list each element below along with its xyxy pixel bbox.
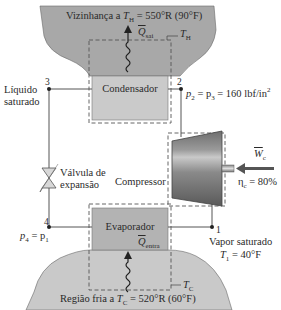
expansion-valve-icon	[40, 164, 58, 192]
state-1-number: 1	[216, 224, 221, 236]
state-3-desc-line2: saturado	[4, 96, 40, 108]
state-1-dot	[210, 225, 214, 229]
condenser-label: Condensador	[92, 83, 168, 95]
hot-reservoir-label: Vizinhança a TH = 550°R (90°F)	[66, 10, 202, 26]
work-input-arrow	[236, 163, 274, 174]
state-4-number: 4	[44, 216, 49, 228]
state-3-desc-line1: Líquido	[4, 84, 37, 96]
state-2-number: 2	[177, 76, 182, 88]
state-1-temp: T1 = 40°F	[220, 249, 261, 265]
state-1-desc: Vapor saturado	[209, 236, 272, 248]
efficiency-label: ηc = 80%	[238, 176, 277, 192]
evaporator-label: Evaporador	[92, 221, 168, 233]
th-boundary-label: TH	[180, 28, 191, 44]
state-4-pressure: p4 = p1	[20, 230, 49, 246]
state-3-number: 3	[45, 76, 50, 88]
compressor-label: Compressor	[115, 176, 166, 188]
compressor-icon	[168, 131, 234, 206]
state-2-pressure: p2 = p3 = 160 lbf/in2	[186, 84, 270, 104]
heat-in-label: Qentra	[138, 236, 160, 252]
heat-out-label: Qsai	[138, 26, 153, 42]
work-label: Wc	[254, 148, 266, 164]
valve-label-line2: expansão	[60, 179, 99, 191]
valve-label-line1: Válvula de	[60, 167, 106, 179]
cold-reservoir-label: Região fria a TC = 520°R (60°F)	[60, 293, 196, 309]
